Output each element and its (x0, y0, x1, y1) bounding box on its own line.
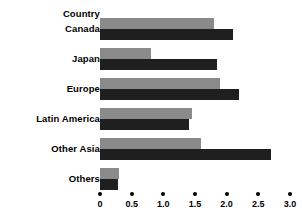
tick-label: 2.5 (243, 199, 273, 209)
category-label: Europe (0, 84, 100, 94)
tick-label: 1.5 (180, 199, 210, 209)
value-axis: 00.51.01.52.02.53.0 (100, 192, 302, 217)
axis-tick: 1.5 (180, 192, 210, 209)
tick-dot-icon (225, 192, 229, 196)
bar-group (100, 48, 302, 70)
bar-group (100, 78, 302, 100)
axis-tick: 0.5 (117, 192, 147, 209)
tick-dot-icon (256, 192, 260, 196)
bar (100, 119, 189, 130)
category-label: Other Asia (0, 144, 100, 154)
bar (100, 149, 271, 160)
axis-tick: 2.0 (212, 192, 242, 209)
tick-dot-icon (161, 192, 165, 196)
bar-group (100, 138, 302, 160)
tick-label: 3.0 (275, 199, 302, 209)
bar (100, 78, 220, 89)
tick-label: 0.5 (117, 199, 147, 209)
bar-group (100, 108, 302, 130)
bar (100, 89, 239, 100)
tick-label: 2.0 (212, 199, 242, 209)
bar (100, 179, 118, 190)
axis-tick: 0 (85, 192, 115, 209)
tick-dot-icon (193, 192, 197, 196)
axis-tick: 1.0 (148, 192, 178, 209)
tick-label: 0 (85, 199, 115, 209)
bar (100, 48, 151, 59)
bar (100, 18, 214, 29)
plot-area (100, 0, 302, 192)
bar (100, 108, 192, 119)
bar (100, 59, 217, 70)
category-label: Canada (0, 24, 100, 34)
axis-tick: 2.5 (243, 192, 273, 209)
category-label: Latin America (0, 114, 100, 124)
category-axis-header: Country (0, 9, 100, 19)
bar-chart: Country CanadaJapanEuropeLatin AmericaOt… (0, 0, 302, 217)
category-label: Japan (0, 54, 100, 64)
axis-tick: 3.0 (275, 192, 302, 209)
bar (100, 168, 119, 179)
tick-dot-icon (130, 192, 134, 196)
tick-dot-icon (98, 192, 102, 196)
category-label: Others (0, 174, 100, 184)
bar-group (100, 18, 302, 40)
bar-group (100, 168, 302, 190)
tick-label: 1.0 (148, 199, 178, 209)
bar (100, 29, 233, 40)
tick-dot-icon (288, 192, 292, 196)
bar (100, 138, 201, 149)
